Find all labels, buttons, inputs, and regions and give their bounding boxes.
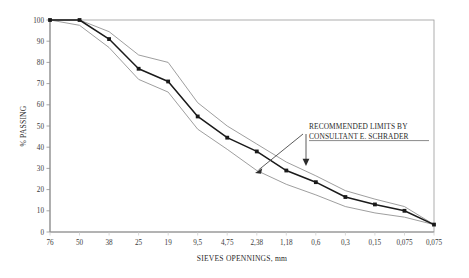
y-tick-label: 20 <box>37 186 45 194</box>
y-tick-label: 90 <box>37 38 45 46</box>
data-point-marker <box>166 80 170 84</box>
data-point-marker <box>196 115 200 119</box>
sieve-gradation-chart: 0 10 20 30 40 50 60 70 80 90 100 76 50 3… <box>0 0 469 278</box>
x-tick-labels: 76 50 38 25 19 9,5 4,75 2,38 1,18 0,6 0,… <box>46 239 442 247</box>
data-point-marker <box>432 223 436 227</box>
y-tick-label: 80 <box>37 59 45 67</box>
y-tick-label: 10 <box>37 207 45 215</box>
data-point-marker <box>78 18 82 22</box>
x-tick-label: 19 <box>165 239 173 247</box>
chart-container: 0 10 20 30 40 50 60 70 80 90 100 76 50 3… <box>0 0 469 278</box>
x-tick-label: 0,075 <box>396 239 413 247</box>
y-tick-label: 50 <box>37 123 45 131</box>
annotation-line-2: CONSULTANT E. SCHRADER <box>309 132 409 141</box>
data-point-marker <box>314 180 318 184</box>
annotation-line-1: RECOMMENDED LIMITS BY <box>309 122 408 131</box>
x-tick-label: 0,075 <box>426 239 443 247</box>
x-axis-title: SIEVES OPENNINGS, mm <box>197 254 287 263</box>
data-point-marker <box>284 169 288 173</box>
y-tick-labels: 0 10 20 30 40 50 60 70 80 90 100 <box>33 17 44 237</box>
x-tick-label: 0,6 <box>311 239 320 247</box>
data-point-marker <box>373 203 377 207</box>
x-tick-label: 9,5 <box>193 239 202 247</box>
data-point-marker <box>403 209 407 213</box>
x-tick-label: 1,18 <box>280 239 293 247</box>
y-axis-title: % PASSING <box>19 105 28 146</box>
x-tick-label: 2,38 <box>251 239 264 247</box>
y-tick-label: 70 <box>37 80 45 88</box>
x-tick-label: 0,3 <box>341 239 350 247</box>
x-tick-label: 0,15 <box>369 239 382 247</box>
y-tick-label: 40 <box>37 144 45 152</box>
y-tick-label: 60 <box>37 101 45 109</box>
data-point-marker <box>137 67 141 71</box>
data-point-marker <box>343 195 347 199</box>
x-tick-label: 25 <box>135 239 143 247</box>
x-tick-label: 50 <box>76 239 84 247</box>
x-tick-label: 4,75 <box>221 239 234 247</box>
y-tick-label: 100 <box>33 17 44 25</box>
data-point-marker <box>255 150 259 154</box>
x-tick-label: 76 <box>46 239 54 247</box>
y-tick-label: 0 <box>40 229 44 237</box>
y-tick-label: 30 <box>37 165 45 173</box>
data-point-marker <box>225 136 229 140</box>
data-point-marker <box>107 37 111 41</box>
x-tick-label: 38 <box>106 239 114 247</box>
data-point-marker <box>48 18 52 22</box>
